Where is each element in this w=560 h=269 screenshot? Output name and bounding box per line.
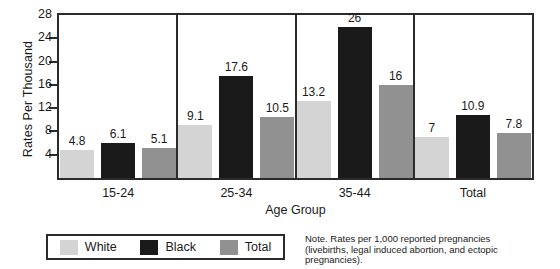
y-axis-tick-label: 16	[8, 78, 52, 90]
bar-value-label: 7	[402, 122, 462, 135]
bar-white-25-34[interactable]	[178, 125, 212, 178]
bar-item: 7.8	[497, 15, 531, 178]
bar-value-label: 26	[325, 12, 385, 25]
bar-group-25-34: 9.117.610.5	[177, 15, 295, 178]
bar-item: 16	[379, 15, 413, 178]
bar-white-total[interactable]	[415, 137, 449, 178]
legend-label: Total	[245, 240, 271, 254]
bar-total-25-34[interactable]	[260, 117, 294, 178]
legend-swatch-black	[140, 240, 158, 255]
bar-item: 10.9	[456, 15, 490, 178]
note-line: Note. Rates per 1,000 reported pregnanci…	[305, 234, 555, 245]
bar-value-label: 17.6	[206, 61, 266, 74]
bar-item: 5.1	[142, 15, 176, 178]
bar-item: 26	[338, 15, 372, 178]
bar-item: 7	[415, 15, 449, 178]
legend-item-total[interactable]: Total	[220, 240, 271, 255]
legend-item-white[interactable]: White	[60, 240, 117, 255]
legend-label: Black	[165, 240, 196, 254]
x-axis-title: Age Group	[57, 203, 534, 217]
y-axis-tick-label: 28	[8, 8, 52, 20]
note-line: pregnancies).	[305, 255, 555, 266]
bar-chart-figure: Rates Per Thousand 481216202428 4.86.15.…	[0, 0, 560, 269]
y-axis-tick-label: 4	[8, 148, 52, 160]
legend-swatch-white	[60, 240, 78, 255]
y-axis-tick-label: 24	[8, 31, 52, 43]
bar-item: 9.1	[178, 15, 212, 178]
bar-value-label: 7.8	[484, 118, 544, 131]
bar-value-label: 13.2	[284, 86, 344, 99]
bar-value-label: 10.9	[443, 100, 503, 113]
category-label-35-44: 35-44	[295, 186, 415, 200]
bar-group-35-44: 13.22616	[296, 15, 414, 178]
bar-black-25-34[interactable]	[219, 76, 253, 178]
category-label-total: Total	[413, 186, 533, 200]
legend-item-black[interactable]: Black	[140, 240, 196, 255]
plot-area: 4.86.15.19.117.610.513.22616710.97.8	[57, 13, 534, 180]
bar-item: 17.6	[219, 15, 253, 178]
bar-group-total: 710.97.8	[414, 15, 532, 178]
bar-value-label: 9.1	[165, 110, 225, 123]
legend-label: White	[85, 240, 117, 254]
bar-white-35-44[interactable]	[297, 101, 331, 178]
bar-black-15-24[interactable]	[101, 143, 135, 179]
bar-total-15-24[interactable]	[142, 148, 176, 178]
bar-total-total[interactable]	[497, 133, 531, 178]
category-label-25-34: 25-34	[176, 186, 296, 200]
y-axis-tick-label: 20	[8, 55, 52, 67]
bar-black-35-44[interactable]	[338, 27, 372, 178]
category-label-15-24: 15-24	[58, 186, 178, 200]
bar-item: 4.8	[60, 15, 94, 178]
bar-group-15-24: 4.86.15.1	[59, 15, 177, 178]
chart-note: Note. Rates per 1,000 reported pregnanci…	[305, 234, 555, 266]
y-axis-tick-label: 8	[8, 124, 52, 136]
chart-legend: WhiteBlackTotal	[46, 234, 285, 260]
bar-item: 13.2	[297, 15, 331, 178]
bar-item: 6.1	[101, 15, 135, 178]
legend-swatch-total	[220, 240, 238, 255]
bar-white-15-24[interactable]	[60, 150, 94, 178]
y-axis-tick-label: 12	[8, 101, 52, 113]
